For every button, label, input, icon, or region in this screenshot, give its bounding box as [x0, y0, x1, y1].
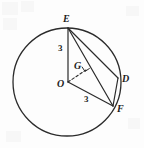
- segment-OG-dashed: [68, 70, 86, 82]
- point-label-O: O: [57, 79, 64, 89]
- point-label-D: D: [122, 74, 129, 84]
- circle-outline: [13, 28, 121, 136]
- geometry-figure: E D F O G 3 3: [0, 0, 144, 148]
- length-label-OF: 3: [84, 95, 89, 104]
- right-angle-mark-icon: [82, 67, 89, 71]
- length-label-EO: 3: [58, 44, 63, 53]
- point-label-G: G: [74, 61, 81, 71]
- point-label-F: F: [117, 104, 124, 114]
- point-label-E: E: [63, 14, 70, 24]
